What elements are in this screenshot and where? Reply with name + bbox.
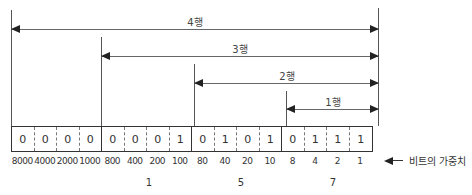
bit-cell: 1	[305, 127, 328, 151]
bit-cell: 0	[282, 127, 305, 151]
bit-weight: 20	[236, 156, 259, 166]
range-arrow-1	[287, 109, 378, 110]
legend-arrow-shaft	[393, 160, 403, 161]
left-arrowhead-icon	[286, 105, 295, 113]
bit-cell: 0	[237, 127, 260, 151]
bit-weight: 1000	[79, 156, 102, 166]
left-arrow-icon	[384, 157, 393, 165]
range-label-2: 2행	[279, 68, 294, 83]
right-arrowhead-icon	[370, 79, 379, 87]
bit-weight: 400	[124, 156, 147, 166]
bit-weight: 800	[101, 156, 124, 166]
bit-weight: 8000	[11, 156, 34, 166]
bit-cell: 1	[170, 127, 193, 151]
group-digit-2: 5	[238, 177, 244, 188]
bit-weight: 1	[349, 156, 372, 166]
bit-weight: 80	[191, 156, 214, 166]
bit-weight: 10	[259, 156, 282, 166]
bit-weight: 200	[146, 156, 169, 166]
left-arrowhead-icon	[194, 79, 203, 87]
bit-weights-row: 8000 4000 2000 1000 800 400 200 100 80 4…	[11, 156, 371, 166]
bit-weight: 4	[304, 156, 327, 166]
bit-cell: 0	[57, 127, 80, 151]
bit-weight: 40	[214, 156, 237, 166]
left-arrowhead-icon	[101, 52, 110, 60]
bit-weight: 4000	[34, 156, 57, 166]
bit-cell: 1	[327, 127, 350, 151]
bit-cell: 0	[35, 127, 58, 151]
bit-cell: 0	[192, 127, 215, 151]
bit-cell: 1	[260, 127, 283, 151]
weights-legend: 비트의 가중치	[384, 153, 466, 168]
range-label-4: 4행	[187, 14, 202, 29]
group-digit-3: 7	[330, 177, 336, 188]
range-arrow-4	[12, 29, 378, 30]
range-label-3: 3행	[232, 41, 247, 56]
bit-weight: 2000	[56, 156, 79, 166]
right-arrowhead-icon	[370, 105, 379, 113]
left-arrowhead-icon	[11, 25, 20, 33]
bit-cell: 1	[215, 127, 238, 151]
group-digit-1: 1	[146, 177, 152, 188]
bit-cell: 0	[80, 127, 103, 151]
range-arrow-2	[195, 83, 378, 84]
bit-register: 0 0 0 0 0 0 0 1 0 1 0 1 0 1 1 1	[11, 126, 373, 152]
bit-cell: 0	[125, 127, 148, 151]
legend-label: 비트의 가중치	[409, 153, 466, 168]
right-arrowhead-icon	[370, 52, 379, 60]
bit-cell: 0	[102, 127, 125, 151]
bit-cell: 0	[12, 127, 35, 151]
bit-weight: 8	[281, 156, 304, 166]
range-label-1: 1행	[325, 94, 340, 109]
bit-cell: 1	[350, 127, 373, 151]
boundary-line-2	[194, 64, 195, 126]
bit-cell: 0	[147, 127, 170, 151]
range-arrow-3	[102, 56, 378, 57]
boundary-line-3	[101, 37, 102, 126]
bit-weight: 2	[326, 156, 349, 166]
right-arrowhead-icon	[370, 25, 379, 33]
bit-weight: 100	[169, 156, 192, 166]
